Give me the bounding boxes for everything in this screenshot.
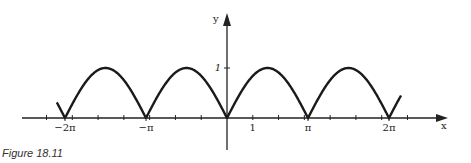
y-axis-arrow-icon (223, 13, 231, 26)
tick-labels: −2π−π1π2π1 (54, 62, 396, 133)
abs-sin-curve (57, 68, 401, 118)
figure-caption: Figure 18.11 (2, 147, 63, 159)
x-tick-label: 2π (383, 122, 396, 133)
x-tick-label: −2π (54, 122, 76, 133)
x-tick-label: π (305, 122, 312, 133)
x-axis-label: x (441, 120, 447, 131)
y-axis-label: y (212, 13, 219, 24)
y-tick-label: 1 (215, 62, 221, 73)
x-tick-label: −π (139, 122, 154, 133)
figure-plot: −2π−π1π2π1 y x Figure 18.11 (0, 0, 471, 163)
x-tick-label: 1 (250, 122, 256, 133)
